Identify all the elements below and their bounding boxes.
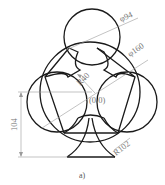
stem-right-shoulder (104, 118, 118, 133)
label-r40: R40 (74, 70, 91, 87)
top-circle (64, 9, 120, 65)
dim-phi94-line (66, 18, 138, 50)
label-104: 104 (9, 118, 19, 132)
arrow-up-icon (19, 92, 23, 97)
arrow-down-icon (19, 152, 23, 157)
label-origin: (0.0) (89, 95, 105, 105)
label-phi94: φ94 (118, 9, 135, 24)
club-drawing: φ94 φ160 R40 (0.0) 104 R102 a) (0, 0, 165, 185)
label-r102: R102 (111, 138, 132, 157)
figure-caption: a) (79, 171, 86, 180)
label-phi160: φ160 (126, 40, 146, 58)
